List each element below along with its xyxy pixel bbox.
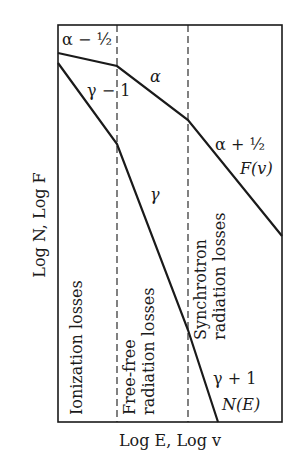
region-freefree-label-1: Free-free xyxy=(120,339,139,415)
loss-regimes-diagram: α − ½ α α + ½ F(v) γ − 1 γ γ + 1 N(E) Io… xyxy=(0,0,301,456)
label-gamma: γ xyxy=(150,185,160,204)
label-gamma-plus-1: γ + 1 xyxy=(213,369,256,388)
region-freefree-label-2: radiation losses xyxy=(139,287,158,415)
label-alpha: α xyxy=(150,67,161,86)
label-F-v: F(v) xyxy=(239,159,273,178)
label-alpha-minus-half: α − ½ xyxy=(62,30,112,49)
y-axis-label: Log N, Log F xyxy=(30,172,49,277)
label-gamma-minus-1: γ − 1 xyxy=(87,81,130,100)
label-alpha-plus-half: α + ½ xyxy=(215,135,265,154)
region-synchrotron-label-1: Synchrotron xyxy=(191,239,210,340)
region-synchrotron-label-2: radiation losses xyxy=(210,212,229,340)
region-ionization-label: Ionization losses xyxy=(67,280,86,415)
label-N-E: N(E) xyxy=(221,395,260,414)
x-axis-label: Log E, Log v xyxy=(119,431,221,450)
